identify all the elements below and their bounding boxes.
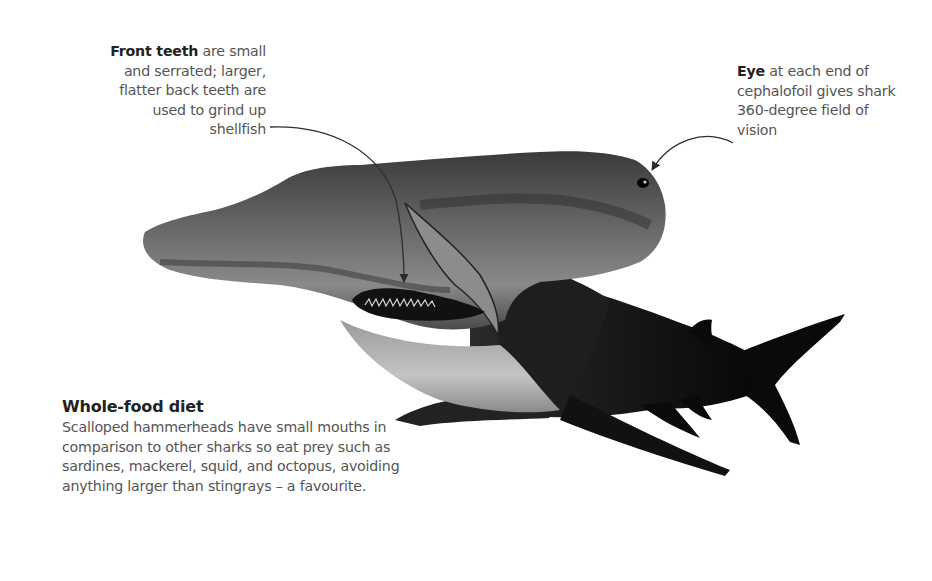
eye-leader-line xyxy=(652,137,733,170)
eye-callout: Eye at each end of cephalofoil gives sha… xyxy=(737,62,907,140)
diet-heading: Whole-food diet xyxy=(62,396,422,418)
caudal-fin xyxy=(740,314,845,445)
diet-body-text: Scalloped hammerheads have small mouths … xyxy=(62,418,422,496)
eye-icon xyxy=(637,178,649,188)
teeth-callout-label: Front teeth xyxy=(110,43,198,59)
diet-section: Whole-food diet Scalloped hammerheads ha… xyxy=(62,396,422,496)
teeth-callout: Front teeth are small and serrated; larg… xyxy=(100,42,266,140)
eye-callout-label: Eye xyxy=(737,63,765,79)
